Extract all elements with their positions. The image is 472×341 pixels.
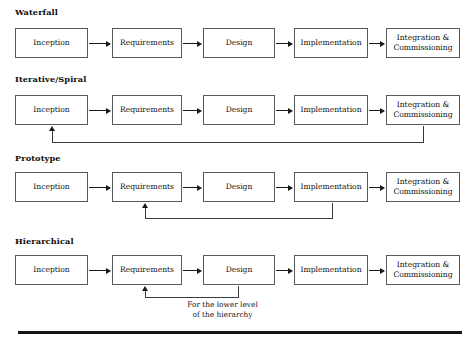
- stage-box-implementation: Implementation: [294, 255, 368, 285]
- feedback-loop-horizontal-segment: [52, 142, 424, 143]
- stage-label-integration-line2: Commissioning: [393, 43, 452, 53]
- feedback-loop-caption-line2: of the hierarchy: [145, 310, 300, 320]
- feedback-loop-horizontal-segment: [145, 218, 333, 219]
- stage-box-design: Design: [203, 95, 275, 125]
- feedback-loop-up-segment: [52, 131, 53, 143]
- arrow-inception-to-requirements: [89, 270, 110, 271]
- stage-label-design: Design: [226, 182, 253, 192]
- stage-box-integration: Integration & Commissioning: [386, 95, 460, 125]
- feedback-loop-horizontal-segment: [145, 297, 239, 298]
- stage-box-implementation: Implementation: [294, 28, 368, 58]
- stage-label-integration-line2: Commissioning: [393, 270, 452, 280]
- row-title-hierarchical: Hierarchical: [15, 236, 74, 246]
- stage-label-inception: Inception: [33, 38, 69, 48]
- stage-box-design: Design: [203, 28, 275, 58]
- arrow-design-to-implementation: [276, 270, 292, 271]
- stage-label-design: Design: [226, 265, 253, 275]
- stage-label-integration-line2: Commissioning: [393, 110, 452, 120]
- lifecycle-models-figure: Waterfall Inception Requirements Design …: [0, 0, 472, 341]
- stage-box-integration: Integration & Commissioning: [386, 255, 460, 285]
- stage-label-implementation: Implementation: [300, 38, 361, 48]
- feedback-loop-arrowhead: [142, 286, 148, 291]
- feedback-loop-caption-line1: For the lower level: [145, 300, 300, 310]
- stage-label-design: Design: [226, 105, 253, 115]
- arrow-inception-to-requirements: [89, 110, 110, 111]
- stage-box-design: Design: [203, 255, 275, 285]
- arrow-implementation-to-integration: [369, 270, 384, 271]
- stage-label-inception: Inception: [33, 182, 69, 192]
- stage-box-implementation: Implementation: [294, 172, 368, 202]
- feedback-loop-up-segment: [145, 291, 146, 298]
- feedback-loop-down-segment: [423, 126, 424, 143]
- stage-label-requirements: Requirements: [120, 105, 174, 115]
- stage-box-implementation: Implementation: [294, 95, 368, 125]
- arrow-design-to-implementation: [276, 110, 292, 111]
- stage-label-integration-line1: Integration &: [393, 33, 452, 43]
- stage-box-requirements: Requirements: [112, 28, 182, 58]
- row-title-prototype: Prototype: [15, 153, 61, 163]
- arrow-implementation-to-integration: [369, 43, 384, 44]
- row-title-waterfall: Waterfall: [15, 7, 58, 17]
- stage-box-design: Design: [203, 172, 275, 202]
- arrow-inception-to-requirements: [89, 187, 110, 188]
- feedback-loop-caption: For the lower level of the hierarchy: [145, 300, 300, 320]
- stage-label-requirements: Requirements: [120, 182, 174, 192]
- stage-label-design: Design: [226, 38, 253, 48]
- stage-label-inception: Inception: [33, 105, 69, 115]
- stage-label-inception: Inception: [33, 265, 69, 275]
- arrow-implementation-to-integration: [369, 110, 384, 111]
- arrow-design-to-implementation: [276, 43, 292, 44]
- stage-box-integration: Integration & Commissioning: [386, 28, 460, 58]
- stage-box-inception: Inception: [15, 255, 88, 285]
- arrow-design-to-implementation: [276, 187, 292, 188]
- stage-label-implementation: Implementation: [300, 182, 361, 192]
- stage-label-integration-line1: Integration &: [393, 177, 452, 187]
- arrow-requirements-to-design: [183, 270, 201, 271]
- stage-box-inception: Inception: [15, 28, 88, 58]
- stage-label-requirements: Requirements: [120, 265, 174, 275]
- arrow-requirements-to-design: [183, 187, 201, 188]
- stage-box-requirements: Requirements: [112, 95, 182, 125]
- arrow-inception-to-requirements: [89, 43, 110, 44]
- arrow-requirements-to-design: [183, 110, 201, 111]
- arrow-implementation-to-integration: [369, 187, 384, 188]
- stage-box-inception: Inception: [15, 172, 88, 202]
- stage-box-integration: Integration & Commissioning: [386, 172, 460, 202]
- stage-label-integration-line2: Commissioning: [393, 187, 452, 197]
- feedback-loop-arrowhead: [49, 126, 55, 131]
- stage-box-requirements: Requirements: [112, 172, 182, 202]
- arrow-requirements-to-design: [183, 43, 201, 44]
- stage-box-requirements: Requirements: [112, 255, 182, 285]
- feedback-loop-down-segment: [332, 203, 333, 219]
- stage-label-integration-line1: Integration &: [393, 100, 452, 110]
- bottom-divider-rule: [18, 331, 462, 334]
- stage-label-requirements: Requirements: [120, 38, 174, 48]
- stage-label-implementation: Implementation: [300, 265, 361, 275]
- stage-box-inception: Inception: [15, 95, 88, 125]
- stage-label-implementation: Implementation: [300, 105, 361, 115]
- feedback-loop-arrowhead: [142, 203, 148, 208]
- stage-label-integration-line1: Integration &: [393, 260, 452, 270]
- feedback-loop-up-segment: [145, 208, 146, 219]
- row-title-iterative-spiral: Iterative/Spiral: [15, 74, 86, 84]
